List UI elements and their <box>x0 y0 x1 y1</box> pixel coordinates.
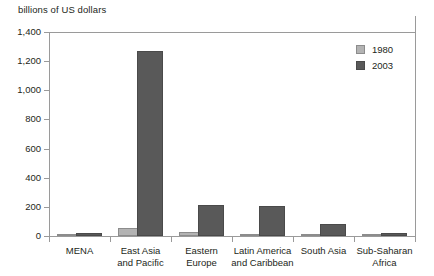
y-axis-tick-label: 400 <box>25 172 41 183</box>
y-axis-tick-label: 600 <box>25 143 41 154</box>
y-axis-tick-mark <box>44 32 49 33</box>
x-axis-tick-mark <box>110 236 111 242</box>
bar-2003-4 <box>320 224 346 236</box>
bar-2003-1 <box>137 51 163 236</box>
x-axis-category-label-line: Sub-Saharan <box>348 245 421 257</box>
y-axis-tick-mark <box>44 207 49 208</box>
legend-item-1980[interactable]: 1980 <box>356 41 393 57</box>
legend-item-2003[interactable]: 2003 <box>356 57 393 73</box>
x-axis-category-label-line: and Caribbean <box>226 257 299 269</box>
legend-label: 2003 <box>372 60 393 71</box>
x-axis-tick-mark <box>171 236 172 242</box>
bar-2003-3 <box>259 206 285 236</box>
bar-2003-5 <box>381 233 407 236</box>
y-axis-tick-label: 0 <box>36 230 41 241</box>
x-axis-category-label: Sub-SaharanAfrica <box>348 245 421 268</box>
legend-swatch-2003-icon <box>356 61 365 70</box>
bar-2003-2 <box>198 205 224 236</box>
y-axis-tick-label: 200 <box>25 201 41 212</box>
bar-2003-0 <box>76 233 102 236</box>
y-axis-tick-mark <box>44 119 49 120</box>
x-axis-tick-mark <box>354 236 355 242</box>
legend-swatch-1980-icon <box>356 45 365 54</box>
x-axis-tick-mark <box>232 236 233 242</box>
chart-figure: billions of US dollars 02004006008001,00… <box>0 0 434 276</box>
y-axis-tick-mark <box>44 61 49 62</box>
y-axis-tick-label: 1,200 <box>17 55 41 66</box>
y-axis-tick-mark <box>44 178 49 179</box>
x-axis-category-label-line: Africa <box>348 257 421 269</box>
chart-axis-title: billions of US dollars <box>18 4 106 15</box>
y-axis-tick-label: 1,400 <box>17 26 41 37</box>
y-axis-tick-label: 1,000 <box>17 84 41 95</box>
x-axis-tick-mark <box>293 236 294 242</box>
chart-legend: 19802003 <box>356 41 393 73</box>
y-axis-tick-label: 800 <box>25 113 41 124</box>
y-axis-tick-mark <box>44 90 49 91</box>
legend-label: 1980 <box>372 44 393 55</box>
x-axis-tick-mark <box>415 236 416 242</box>
x-axis-tick-mark <box>49 236 50 242</box>
y-axis-tick-mark <box>44 149 49 150</box>
